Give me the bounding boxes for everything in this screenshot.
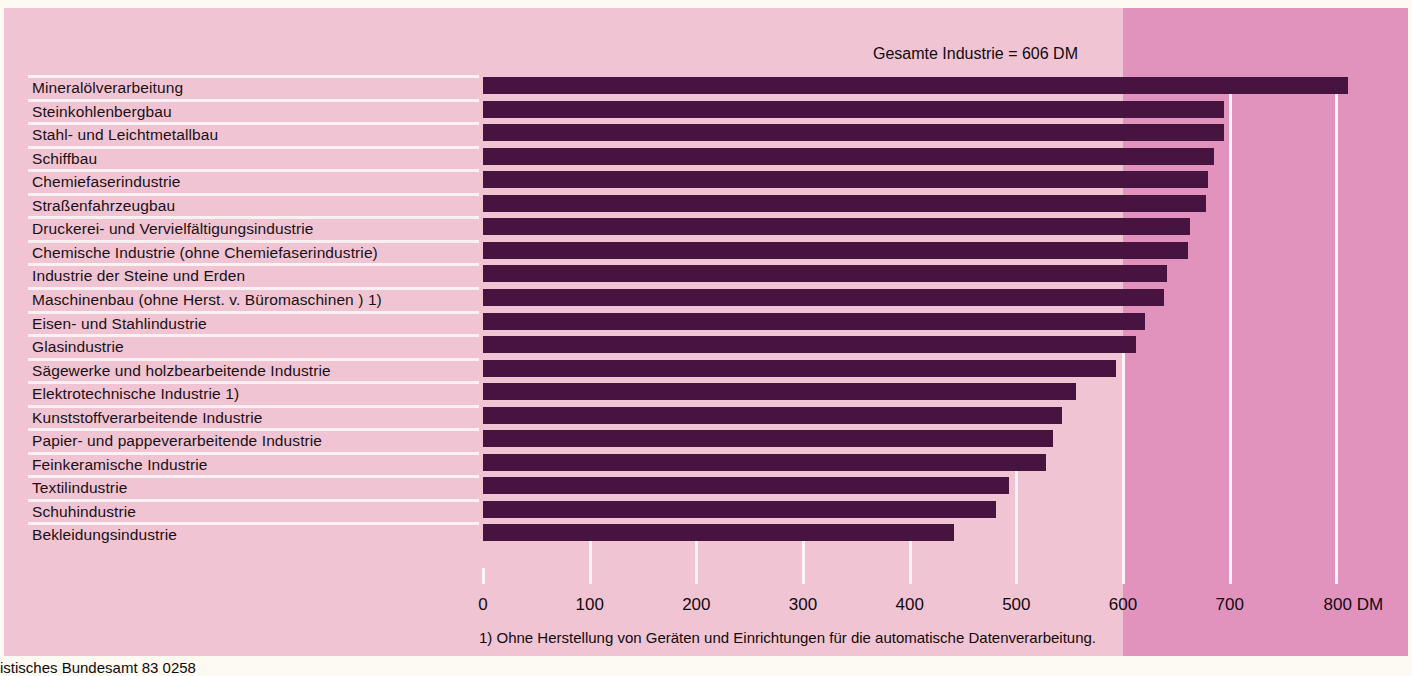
row-separator xyxy=(28,452,479,455)
row-separator xyxy=(28,522,479,525)
bar xyxy=(483,501,996,518)
axis-tick xyxy=(1229,568,1232,584)
bar xyxy=(483,524,954,541)
chart-page: MineralölverarbeitungSteinkohlenbergbauS… xyxy=(0,0,1412,676)
gridline xyxy=(1122,353,1125,568)
category-label: Feinkeramische Industrie xyxy=(32,457,208,473)
row-separator xyxy=(28,311,479,314)
bar xyxy=(483,407,1062,424)
axis-tick-label: 100 xyxy=(575,596,603,613)
source-attribution: istisches Bundesamt 83 0258 xyxy=(0,660,196,675)
category-label: Papier- und pappeverarbeitende Industrie xyxy=(32,433,322,449)
bar xyxy=(483,289,1164,306)
category-label: Maschinenbau (ohne Herst. v. Büromaschin… xyxy=(32,292,382,308)
total-industry-annotation: Gesamte Industrie = 606 DM xyxy=(873,46,1078,62)
bar xyxy=(483,336,1136,353)
bar xyxy=(483,195,1206,212)
row-separator xyxy=(28,405,479,408)
bar xyxy=(483,265,1167,282)
category-label: Mineralölverarbeitung xyxy=(32,80,183,96)
bar xyxy=(483,171,1208,188)
bar xyxy=(483,148,1214,165)
footnote-text: 1) Ohne Herstellung von Geräten und Einr… xyxy=(479,630,1096,645)
gridline xyxy=(1335,94,1338,568)
row-separator xyxy=(28,475,479,478)
gridline xyxy=(802,541,805,568)
axis-tick xyxy=(1015,568,1018,584)
axis-tick-label: 0 xyxy=(478,596,487,613)
category-label: Schiffbau xyxy=(32,151,97,167)
category-label: Bekleidungsindustrie xyxy=(32,527,177,543)
row-separator xyxy=(28,216,479,219)
row-separator xyxy=(28,146,479,149)
row-separator xyxy=(28,499,479,502)
bar xyxy=(483,454,1046,471)
category-label: Schuhindustrie xyxy=(32,504,136,520)
axis-tick xyxy=(909,568,912,584)
category-label: Glasindustrie xyxy=(32,339,124,355)
bar xyxy=(483,124,1224,141)
axis-tick-label: 700 xyxy=(1216,596,1244,613)
category-label: Stahl- und Leichtmetallbau xyxy=(32,127,218,143)
row-separator xyxy=(28,428,479,431)
category-label: Elektrotechnische Industrie 1) xyxy=(32,386,239,402)
axis-tick xyxy=(482,568,485,584)
category-label: Eisen- und Stahlindustrie xyxy=(32,316,207,332)
category-label: Sägewerke und holzbearbeitende Industrie xyxy=(32,363,331,379)
category-label: Druckerei- und Vervielfältigungsindustri… xyxy=(32,221,314,237)
gridline xyxy=(695,541,698,568)
row-separator xyxy=(28,99,479,102)
bar xyxy=(483,242,1188,259)
row-separator xyxy=(28,75,479,78)
axis-tick-label: 300 xyxy=(789,596,817,613)
bar xyxy=(483,77,1348,94)
category-label: Chemiefaserindustrie xyxy=(32,174,180,190)
axis-tick-label: 800 DM xyxy=(1324,596,1384,613)
row-separator xyxy=(28,358,479,361)
row-separator xyxy=(28,240,479,243)
axis-tick xyxy=(589,568,592,584)
plot-area: MineralölverarbeitungSteinkohlenbergbauS… xyxy=(4,8,1408,656)
axis-tick-label: 400 xyxy=(895,596,923,613)
axis-tick xyxy=(1122,568,1125,584)
bar xyxy=(483,218,1190,235)
axis-tick-label: 200 xyxy=(682,596,710,613)
axis-tick xyxy=(1335,568,1338,584)
gridline xyxy=(1015,471,1018,568)
axis-tick xyxy=(695,568,698,584)
bar xyxy=(483,360,1116,377)
chart-panel: MineralölverarbeitungSteinkohlenbergbauS… xyxy=(4,8,1408,656)
row-separator xyxy=(28,381,479,384)
axis-tick xyxy=(802,568,805,584)
axis-tick-label: 500 xyxy=(1002,596,1030,613)
bar xyxy=(483,101,1224,118)
row-separator xyxy=(28,263,479,266)
category-label: Straßenfahrzeugbau xyxy=(32,198,175,214)
row-separator xyxy=(28,193,479,196)
gridline xyxy=(909,541,912,568)
category-label: Textilindustrie xyxy=(32,480,127,496)
axis-tick-label: 600 xyxy=(1109,596,1137,613)
bar xyxy=(483,477,1009,494)
row-separator xyxy=(28,169,479,172)
category-label: Kunststoffverarbeitende Industrie xyxy=(32,410,263,426)
category-label: Chemische Industrie (ohne Chemiefaserind… xyxy=(32,245,378,261)
row-separator xyxy=(28,122,479,125)
gridline xyxy=(589,541,592,568)
gridline xyxy=(1229,94,1232,568)
bar xyxy=(483,383,1076,400)
bar xyxy=(483,430,1053,447)
category-label: Industrie der Steine und Erden xyxy=(32,268,245,284)
category-label: Steinkohlenbergbau xyxy=(32,104,172,120)
bar xyxy=(483,313,1145,330)
row-separator xyxy=(28,334,479,337)
row-separator xyxy=(28,287,479,290)
